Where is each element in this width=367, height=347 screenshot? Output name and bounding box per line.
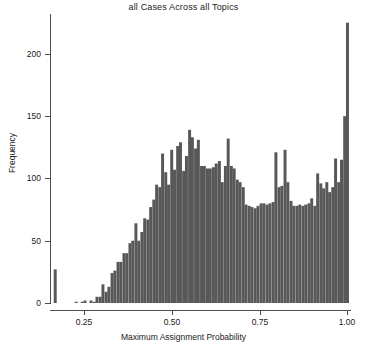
chart-title: all Cases Across all Topics [0,2,367,12]
y-tick-mark [45,116,50,117]
y-tick-mark [45,178,50,179]
y-tick-label: 0 [0,299,41,308]
y-tick-mark [45,54,50,55]
plot-area [51,14,351,303]
histogram-bars [51,14,351,303]
x-axis-label: Maximum Assignment Probability [0,332,367,342]
histogram-chart: all Cases Across all Topics Frequency 05… [0,0,367,347]
x-axis-line [50,310,351,311]
y-tick-label: 150 [0,112,41,121]
x-tick-mark [172,310,173,315]
y-tick-label: 200 [0,50,41,59]
x-tick-label: 1.00 [327,318,367,327]
y-tick-label: 100 [0,174,41,183]
x-tick-label: 0.25 [64,318,104,327]
y-tick-mark [45,241,50,242]
y-axis-label: Frequency [7,108,17,198]
x-tick-mark [347,310,348,315]
x-tick-mark [260,310,261,315]
x-tick-label: 0.75 [240,318,280,327]
x-tick-label: 0.50 [152,318,192,327]
y-tick-label: 50 [0,237,41,246]
y-tick-mark [45,303,50,304]
x-tick-mark [84,310,85,315]
